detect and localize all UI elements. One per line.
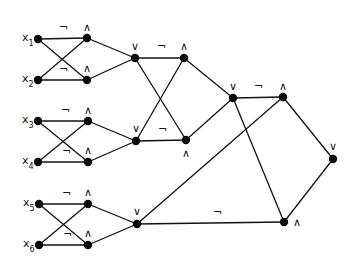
input-label-x4: x4 — [22, 154, 34, 171]
and-gate-node — [182, 136, 190, 144]
and-gate-node — [84, 117, 92, 125]
or-gate-node — [133, 220, 141, 228]
or-gate-label: ∨ — [229, 80, 237, 93]
and-gate-node — [280, 218, 288, 226]
wire-a9-o5 — [283, 97, 333, 159]
wire-o2-a8 — [136, 140, 186, 141]
and-gate-node — [84, 200, 92, 208]
wire-a8-o4 — [186, 98, 233, 140]
and-gate-label: ∧ — [279, 80, 287, 93]
negation-symbol: ¬ — [61, 104, 70, 117]
and-gate-node — [83, 34, 91, 42]
input-node-x1 — [34, 35, 42, 43]
or-gate-node — [131, 54, 139, 62]
and-gate-label: ∧ — [83, 62, 91, 75]
wire-a5-o3 — [88, 204, 137, 224]
or-gate-node — [229, 94, 237, 102]
negation-symbol: ¬ — [157, 40, 166, 53]
input-node-x4 — [34, 158, 42, 166]
negation-labels: ¬¬¬¬¬¬¬¬¬¬ — [59, 21, 263, 241]
negation-symbol: ¬ — [59, 63, 68, 76]
input-label-x1: x1 — [22, 31, 34, 48]
input-label-x2: x2 — [22, 72, 34, 89]
or-gate-label: ∨ — [131, 40, 139, 53]
wire-o3-a9 — [137, 97, 283, 224]
input-label-x3: x3 — [22, 113, 34, 130]
negation-symbol: ¬ — [62, 187, 71, 200]
and-gate-node — [180, 54, 188, 62]
and-gate-node — [84, 158, 92, 166]
wire-a4-o2 — [88, 141, 136, 162]
and-gate-node — [84, 241, 92, 249]
input-node-x5 — [35, 200, 43, 208]
and-gate-label: ∧ — [293, 216, 301, 229]
or-gate-label: ∨ — [132, 122, 140, 135]
wire-a2-o1 — [87, 58, 135, 80]
and-gate-label: ∧ — [180, 40, 188, 53]
circuit-nodes — [34, 34, 337, 249]
wire-o3-a10 — [137, 222, 284, 224]
input-node-x3 — [34, 117, 42, 125]
negation-symbol: ¬ — [63, 228, 72, 241]
wire-a3-o2 — [88, 121, 136, 141]
or-gate-label: ∨ — [329, 140, 337, 153]
and-gate-label: ∧ — [84, 144, 92, 157]
negation-symbol: ¬ — [62, 145, 71, 158]
wire-a7-o4 — [184, 58, 233, 98]
wire-o4-a9 — [233, 97, 283, 98]
and-gate-label: ∧ — [84, 186, 92, 199]
and-gate-label: ∧ — [83, 21, 91, 34]
boolean-circuit-diagram: ¬¬¬¬¬¬¬¬¬¬ x1x2x3x4x5x6∧∧∨∧∧∨∧∧∨∧∧∨∧∨∧ — [0, 0, 356, 273]
and-gate-label: ∧ — [84, 104, 92, 117]
or-gate-node — [132, 137, 140, 145]
or-gate-node — [329, 155, 337, 163]
input-label-x5: x5 — [23, 196, 35, 213]
input-node-x2 — [34, 76, 42, 84]
negation-symbol: ¬ — [158, 123, 167, 136]
and-gate-label: ∧ — [182, 147, 190, 160]
wire-x1-a1 — [38, 38, 87, 39]
input-node-x6 — [35, 241, 43, 249]
wire-o4-a10 — [233, 98, 284, 222]
wire-a10-o5 — [284, 159, 333, 222]
wire-a1-o1 — [87, 38, 135, 58]
negation-symbol: ¬ — [254, 80, 263, 93]
and-gate-node — [83, 76, 91, 84]
and-gate-label: ∧ — [84, 227, 92, 240]
wire-a6-o3 — [88, 224, 137, 245]
negation-symbol: ¬ — [59, 21, 68, 34]
negation-symbol: ¬ — [213, 206, 222, 219]
or-gate-label: ∨ — [133, 205, 141, 218]
input-label-x6: x6 — [23, 237, 35, 254]
and-gate-node — [279, 93, 287, 101]
